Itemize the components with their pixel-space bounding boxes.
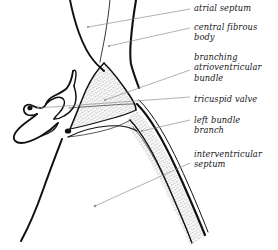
leader-dot-atrial-septum [87,26,89,28]
label-left-bundle-branch: left bundle branch [194,115,240,136]
leader-dot-tricuspid-valve [37,107,39,109]
label-branching-atrioventricular-bundle: branching atrioventricular bundle [194,52,262,83]
leader-dot-central-fibrous-body [108,45,110,47]
label-central-fibrous-body: central fibrous body [194,22,257,43]
label-atrial-septum: atrial septum [194,3,251,13]
label-interventricular-septum: interventricular septum [194,149,262,170]
valve-node-left [27,106,32,111]
label-tricuspid-valve: tricuspid valve [194,94,257,104]
valve-node-right [65,128,71,133]
leader-dot-left-bundle-branch [141,130,143,132]
figure-canvas: atrial septum central fibrous body branc… [0,0,278,250]
leader-dot-interventricular-septum [94,205,97,208]
leader-dot-branching-atrioventricular-bundle [104,99,106,101]
